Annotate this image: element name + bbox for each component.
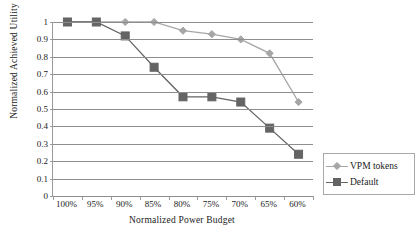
legend-marker-diamond-icon [324,159,350,173]
legend-label: Default [350,177,379,187]
y-axis-tick [50,144,54,145]
chart-legend: VPM tokens Default [323,153,415,195]
gridline [53,39,313,40]
legend-marker [333,162,341,170]
y-axis-tick [50,22,54,23]
legend-marker-square-icon [324,175,350,189]
gridline [53,22,313,23]
y-axis-title: Normalized Achieved Utility [9,0,19,136]
data-point [179,93,187,101]
gridline [53,74,313,75]
x-axis-line [53,196,313,197]
x-axis-tick-label: 80% [174,199,191,209]
y-axis-tick [50,74,54,75]
data-point [295,150,303,158]
y-axis-tick [50,39,54,40]
y-axis-tick-label: 0.7 [37,70,48,79]
data-point [295,98,302,105]
gridline [53,92,313,93]
data-point [266,124,274,132]
y-axis-tick [50,92,54,93]
y-axis-tick-label: 0 [44,192,49,201]
x-axis-tick-labels: 100%95%90%85%80%75%70%65%60% [52,199,312,213]
legend-item-vpm-tokens[interactable]: VPM tokens [324,158,414,174]
gridline [53,126,313,127]
y-axis-tick-label: 0.8 [37,52,48,61]
x-axis-tick-label: 60% [289,199,306,209]
x-axis-tick [313,196,314,200]
data-point [150,63,158,71]
y-axis-tick [50,161,54,162]
data-point [208,93,216,101]
y-axis-tick-label: 0.4 [37,122,48,131]
y-axis-tick-label: 0.5 [37,105,48,114]
x-axis-tick-label: 95% [87,199,104,209]
legend-marker [333,178,341,186]
y-axis-tick [50,179,54,180]
y-axis-tick-label: 0.1 [37,174,48,183]
y-axis-tick [50,57,54,58]
y-axis-tick-label: 0.6 [37,87,48,96]
series-line [67,22,298,154]
x-axis-title: Normalized Power Budget [52,215,312,225]
y-axis-tick-label: 0.2 [37,157,48,166]
gridline [53,57,313,58]
legend-label: VPM tokens [350,161,398,171]
legend-item-default[interactable]: Default [324,174,414,190]
x-axis-tick-label: 85% [145,199,162,209]
plot-area [52,22,313,196]
x-axis-tick-label: 90% [116,199,133,209]
gridline [53,144,313,145]
chart-container: Normalized Achieved Utility 00.10.20.30.… [0,0,420,244]
x-axis-tick-label: 70% [232,199,249,209]
data-point [237,98,245,106]
x-axis-tick-label: 100% [56,199,77,209]
gridline [53,161,313,162]
y-axis-tick [50,126,54,127]
y-axis-tick [50,109,54,110]
x-axis-tick-label: 75% [203,199,220,209]
gridline [53,109,313,110]
x-axis-tick-label: 65% [260,199,277,209]
data-point [179,27,186,34]
y-axis-tick-label: 1 [44,18,49,27]
gridline [53,179,313,180]
y-axis-tick-label: 0.3 [37,139,48,148]
y-axis-tick-label: 0.9 [37,35,48,44]
y-axis-tick-labels: 00.10.20.30.40.50.60.70.80.91 [22,16,48,198]
data-point [208,31,215,38]
